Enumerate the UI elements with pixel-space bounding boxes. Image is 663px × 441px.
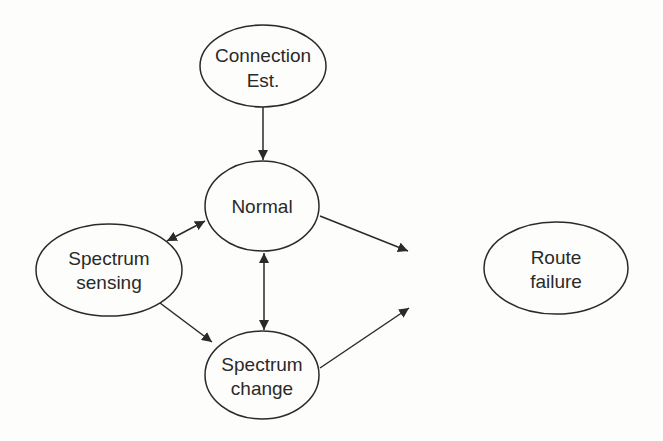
node-normal: Normal bbox=[205, 161, 319, 251]
node-label-line-1: Connection bbox=[215, 45, 311, 66]
node-label-line-1: Spectrum bbox=[221, 354, 302, 375]
node-label-line-1: Spectrum bbox=[68, 248, 149, 269]
edge-normal-to-route-failure bbox=[320, 216, 408, 251]
node-label: Normal bbox=[231, 196, 292, 217]
node-label-line-2: Est. bbox=[247, 70, 280, 91]
node-label-line-2: sensing bbox=[76, 272, 142, 293]
edge-change-to-route-failure bbox=[320, 308, 409, 368]
node-label-line-1: Route bbox=[531, 247, 582, 268]
edge-sensing-to-change bbox=[160, 303, 212, 342]
node-label-line-2: change bbox=[231, 378, 293, 399]
edge-normal-sensing-bidirectional bbox=[167, 221, 205, 241]
node-route-failure: Route failure bbox=[484, 222, 628, 314]
state-diagram: Connection Est. Normal Spectrum sensing … bbox=[0, 0, 663, 441]
node-label-line-2: failure bbox=[530, 271, 582, 292]
node-spectrum-change: Spectrum change bbox=[205, 331, 319, 419]
node-connection-est: Connection Est. bbox=[200, 25, 326, 107]
node-spectrum-sensing: Spectrum sensing bbox=[36, 224, 182, 316]
